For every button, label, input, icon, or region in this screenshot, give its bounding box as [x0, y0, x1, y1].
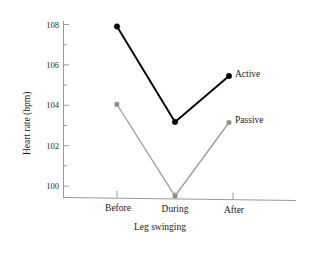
data-point-passive-before	[115, 102, 119, 106]
x-tick-label-during: During	[154, 204, 196, 214]
data-point-passive-during	[173, 194, 177, 198]
data-point-passive-after	[227, 120, 231, 124]
x-tick-label-before: Before	[97, 203, 139, 213]
series-label-passive: Passive	[235, 115, 264, 125]
x-tick-label-after: After	[213, 205, 255, 215]
x-axis-line	[64, 198, 297, 201]
data-point-active-during	[172, 119, 177, 124]
data-point-active-before	[114, 24, 119, 29]
chart-plot-area	[0, 0, 313, 256]
y-tick-label-106: 106	[34, 60, 59, 70]
y-tick-label-104: 104	[34, 100, 59, 110]
y-tick-label-102: 102	[34, 141, 59, 151]
y-axis-title: Heart rate (bpm)	[22, 92, 32, 155]
y-tick-label-108: 108	[34, 20, 59, 30]
x-axis-title: Leg swinging	[134, 222, 186, 232]
series-label-active: Active	[235, 69, 260, 79]
series-line-active	[117, 27, 229, 123]
line-chart: 108 106 104 102 100 Before During After …	[0, 0, 313, 256]
data-point-active-after	[226, 73, 231, 78]
y-tick-label-100: 100	[34, 181, 59, 191]
